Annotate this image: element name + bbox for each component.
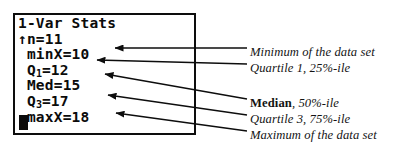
annotation-quartile3-text: Quartile 3, 75%-ile (250, 112, 350, 126)
annotation-minimum-text: Minimum of the data set (250, 45, 375, 59)
block-cursor (19, 115, 28, 130)
calc-line-q1: Q1=12 (18, 63, 194, 79)
annotation-maximum-text: Maximum of the data set (250, 128, 377, 142)
annotation-median: Median, 50%-ile (250, 96, 339, 111)
annotation-minimum: Minimum of the data set (250, 45, 375, 60)
calc-q3-subscript: 3 (36, 99, 42, 110)
calc-line-n: ↑n=11 (18, 32, 194, 48)
calc-line-q3: Q3=17 (18, 94, 194, 110)
annotation-median-text: , 50%-ile (292, 96, 339, 110)
calc-line-title: 1-Var Stats (18, 16, 194, 32)
calculator-screen-lines: 1-Var Stats ↑n=11 minX=10 Q1=12 Med=15 Q… (18, 16, 194, 125)
calc-line-maxx: maxX=18 (18, 110, 194, 126)
calc-q1-suffix: =12 (42, 62, 69, 78)
figure-root: 1-Var Stats ↑n=11 minX=10 Q1=12 Med=15 Q… (0, 0, 410, 159)
calc-line-med: Med=15 (18, 78, 194, 94)
annotation-median-label: Median (250, 96, 292, 110)
annotation-list: Minimum of the data set Quartile 1, 25%-… (250, 0, 410, 159)
annotation-maximum: Maximum of the data set (250, 128, 377, 143)
calculator-screen: 1-Var Stats ↑n=11 minX=10 Q1=12 Med=15 Q… (13, 13, 196, 135)
annotation-quartile1: Quartile 1, 25%-ile (250, 61, 350, 76)
annotation-quartile3: Quartile 3, 75%-ile (250, 112, 350, 127)
calc-q3-prefix: Q (18, 93, 36, 109)
calc-q3-suffix: =17 (42, 93, 69, 109)
annotation-quartile1-text: Quartile 1, 25%-ile (250, 61, 350, 75)
calc-line-minx: minX=10 (18, 47, 194, 63)
calc-q1-subscript: 1 (36, 68, 42, 79)
calc-q1-prefix: Q (18, 62, 36, 78)
